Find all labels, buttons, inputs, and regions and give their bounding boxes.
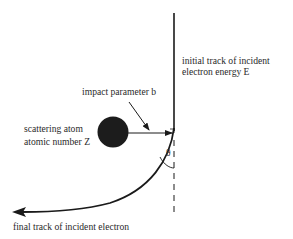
scattering-atom-label-line1: scattering atom: [24, 123, 83, 134]
theta-label: θ: [166, 147, 171, 158]
impact-parameter-pointer: [129, 102, 149, 130]
initial-track-label-line1: initial track of incident: [182, 55, 270, 66]
scattering-diagram: initial track of incident electron energ…: [0, 0, 293, 239]
scattering-atom: [98, 117, 129, 148]
impact-parameter-label: impact parameter b: [82, 86, 156, 97]
initial-track-label-line2: electron energy E: [182, 66, 250, 77]
scattering-atom-label-line2: atomic number Z: [24, 136, 90, 147]
final-track-label: final track of incident electron: [13, 221, 129, 232]
